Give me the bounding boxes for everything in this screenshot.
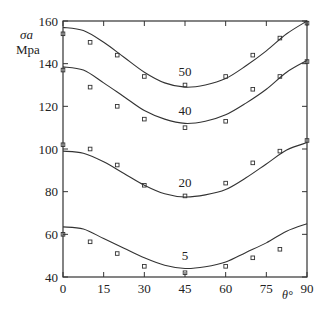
y-tick-label: 120 [39,99,59,114]
series-label-5: 5 [182,248,189,263]
data-point-marker [224,265,228,269]
data-point-marker [251,256,255,260]
y-tick-label: 140 [39,56,59,71]
data-point-marker [278,149,282,153]
y-tick-label: 60 [45,227,58,242]
data-point-marker [251,87,255,91]
data-point-marker [88,147,92,151]
data-point-marker [88,240,92,244]
chart-canvas: 01530456075904060801001201401605040205 [0,0,330,315]
data-point-marker [143,117,147,121]
x-tick-label: 30 [138,281,151,296]
data-point-marker [88,41,92,45]
data-point-marker [278,247,282,251]
data-point-marker [143,265,147,269]
y-axis-symbol: σa [20,27,33,43]
plot-frame [63,21,307,277]
data-point-marker [183,83,187,87]
x-tick-label: 90 [301,281,314,296]
data-point-marker [115,252,119,256]
data-point-marker [251,53,255,57]
x-tick-label: 75 [260,281,273,296]
y-axis-unit: Mpa [16,42,40,58]
data-point-marker [224,181,228,185]
y-tick-label: 80 [45,184,58,199]
data-point-marker [115,163,119,167]
data-point-marker [224,119,228,123]
data-point-marker [183,126,187,130]
x-tick-label: 15 [97,281,110,296]
series-label-40: 40 [179,103,192,118]
x-tick-label: 45 [179,281,192,296]
data-point-marker [88,85,92,89]
data-point-marker [251,161,255,165]
y-tick-label: 40 [45,270,58,285]
x-tick-label: 60 [219,281,232,296]
y-tick-label: 160 [39,14,59,29]
y-tick-label: 100 [39,142,59,157]
data-point-marker [115,53,119,57]
x-axis-label: θ° [282,288,293,303]
data-point-marker [115,105,119,109]
series-label-50: 50 [179,64,192,79]
x-tick-label: 0 [60,281,67,296]
series-label-20: 20 [179,175,192,190]
data-point-marker [143,75,147,79]
